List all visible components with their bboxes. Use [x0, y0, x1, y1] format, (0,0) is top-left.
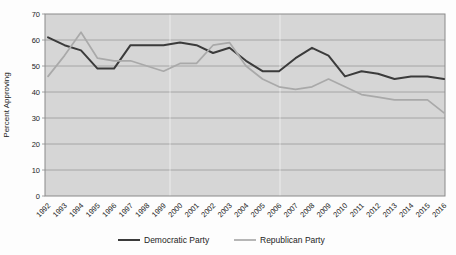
- x-tick-label: 2003: [216, 201, 234, 219]
- line-chart: 0102030405060701992199319941995199619971…: [0, 0, 456, 255]
- x-tick-label: 1993: [51, 201, 69, 219]
- y-tick-label: 50: [32, 62, 40, 71]
- x-tick-label: 2002: [199, 201, 217, 219]
- x-tick-label: 1997: [117, 201, 135, 219]
- x-tick-label: 2009: [315, 201, 333, 219]
- y-tick-label: 30: [32, 114, 40, 123]
- y-tick-label: 40: [32, 88, 40, 97]
- x-tick-label: 2011: [348, 201, 366, 219]
- x-tick-label: 2000: [166, 201, 184, 219]
- x-tick-label: 1992: [34, 201, 52, 219]
- y-tick-label: 0: [36, 192, 40, 201]
- x-tick-label: 1999: [150, 201, 168, 219]
- x-tick-label: 2010: [331, 201, 349, 219]
- x-tick-label: 2001: [183, 201, 201, 219]
- y-tick-label: 10: [32, 166, 40, 175]
- x-tick-label: 1996: [100, 201, 118, 219]
- y-tick-label: 70: [32, 10, 40, 19]
- x-tick-label: 2013: [381, 201, 399, 219]
- x-tick-label: 2015: [414, 201, 432, 219]
- x-tick-label: 2006: [265, 201, 283, 219]
- x-tick-label: 2012: [364, 201, 382, 219]
- x-tick-label: 2004: [232, 201, 250, 219]
- x-tick-label: 2008: [298, 201, 316, 219]
- x-tick-label: 2007: [282, 201, 300, 219]
- x-tick-label: 2005: [249, 201, 267, 219]
- legend-label: Democratic Party: [144, 235, 210, 245]
- legend-label: Republican Party: [260, 235, 325, 245]
- x-tick-label: 1994: [67, 201, 85, 219]
- x-tick-label: 2016: [430, 201, 448, 219]
- y-tick-label: 60: [32, 36, 40, 45]
- x-tick-label: 2014: [397, 201, 415, 219]
- y-tick-label: 20: [32, 140, 40, 149]
- y-axis-title: Percent Approving: [2, 72, 11, 137]
- x-tick-label: 1995: [84, 201, 102, 219]
- plot-area: [45, 14, 445, 196]
- chart-figure: 0102030405060701992199319941995199619971…: [0, 0, 456, 255]
- x-tick-label: 1998: [133, 201, 151, 219]
